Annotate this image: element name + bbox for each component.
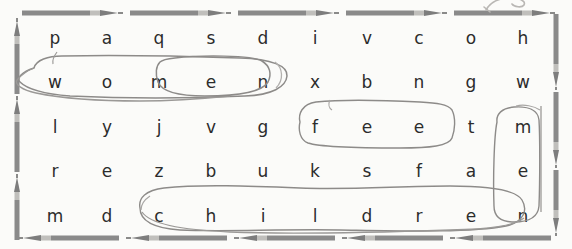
grid-cell[interactable]: f: [406, 161, 432, 181]
grid-cell[interactable]: b: [198, 161, 224, 181]
grid-cell[interactable]: t: [458, 117, 484, 137]
grid-cell[interactable]: n: [250, 72, 276, 92]
grid-cell[interactable]: m: [146, 72, 172, 92]
grid-cell[interactable]: d: [94, 206, 120, 226]
grid-cell[interactable]: s: [198, 28, 224, 48]
grid-cell[interactable]: v: [354, 28, 380, 48]
grid-cell[interactable]: v: [198, 117, 224, 137]
grid-cell[interactable]: d: [354, 206, 380, 226]
grid-cell[interactable]: z: [146, 161, 172, 181]
grid-cell[interactable]: j: [146, 117, 172, 137]
grid-cell[interactable]: n: [510, 206, 536, 226]
grid-cell[interactable]: r: [42, 161, 68, 181]
grid-cell[interactable]: m: [42, 206, 68, 226]
grid-cell[interactable]: y: [94, 117, 120, 137]
grid-cell[interactable]: u: [250, 161, 276, 181]
grid-cell[interactable]: e: [458, 206, 484, 226]
grid-cell[interactable]: x: [302, 72, 328, 92]
grid-cell[interactable]: r: [406, 206, 432, 226]
grid-cell[interactable]: c: [146, 206, 172, 226]
grid-cell[interactable]: e: [94, 161, 120, 181]
grid-cell[interactable]: a: [94, 28, 120, 48]
grid-cell[interactable]: a: [458, 161, 484, 181]
grid-cell[interactable]: b: [354, 72, 380, 92]
grid-cell[interactable]: g: [458, 72, 484, 92]
grid-cell[interactable]: i: [302, 28, 328, 48]
grid-cell[interactable]: w: [510, 72, 536, 92]
grid-cell[interactable]: c: [406, 28, 432, 48]
grid-cell[interactable]: d: [250, 28, 276, 48]
grid-cell[interactable]: o: [458, 28, 484, 48]
letter-grid: p a q s d i v c o h w o m e n x b n g w …: [0, 0, 572, 249]
grid-cell[interactable]: e: [510, 161, 536, 181]
grid-cell[interactable]: e: [354, 117, 380, 137]
grid-cell[interactable]: s: [354, 161, 380, 181]
grid-cell[interactable]: h: [198, 206, 224, 226]
grid-cell[interactable]: g: [250, 117, 276, 137]
grid-cell[interactable]: q: [146, 28, 172, 48]
grid-cell[interactable]: o: [94, 72, 120, 92]
grid-cell[interactable]: m: [510, 117, 536, 137]
word-search-worksheet: p a q s d i v c o h w o m e n x b n g w …: [0, 0, 572, 249]
grid-cell[interactable]: k: [302, 161, 328, 181]
grid-cell[interactable]: w: [42, 72, 68, 92]
grid-cell[interactable]: f: [302, 117, 328, 137]
grid-cell[interactable]: h: [510, 28, 536, 48]
grid-cell[interactable]: e: [406, 117, 432, 137]
grid-cell[interactable]: l: [42, 117, 68, 137]
grid-cell[interactable]: n: [406, 72, 432, 92]
grid-cell[interactable]: p: [42, 28, 68, 48]
grid-cell[interactable]: e: [198, 72, 224, 92]
grid-cell[interactable]: i: [250, 206, 276, 226]
grid-cell[interactable]: l: [302, 206, 328, 226]
